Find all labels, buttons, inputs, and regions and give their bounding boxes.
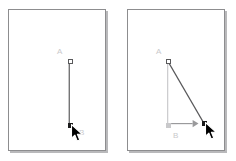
anchor-handle-b[interactable] xyxy=(68,123,73,128)
drag-arrow-head xyxy=(193,120,199,127)
anchor-handle-a[interactable] xyxy=(68,59,73,64)
panel-before-drag[interactable]: A B xyxy=(8,9,106,151)
anchor-handle-a[interactable] xyxy=(166,59,171,64)
anchor-handle-b-original xyxy=(166,123,171,128)
figure-stage: A B A B xyxy=(0,0,236,161)
canvas-after[interactable] xyxy=(128,10,224,150)
point-label-a: A xyxy=(156,48,161,56)
panel-after-drag[interactable]: A B xyxy=(127,9,225,151)
canvas-before[interactable] xyxy=(9,10,105,150)
point-label-a: A xyxy=(57,48,62,56)
anchor-handle-b-new[interactable] xyxy=(202,121,207,126)
point-label-b-original: B xyxy=(173,132,178,140)
line-segment-ab-new[interactable] xyxy=(168,61,203,122)
point-label-b: B xyxy=(79,129,84,137)
drag-direction-arrow-icon xyxy=(171,120,198,127)
